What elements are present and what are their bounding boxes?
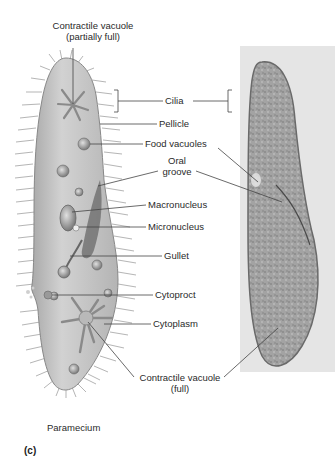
cytoproct — [44, 291, 52, 299]
micronucleus — [73, 225, 79, 231]
food-vacuole — [69, 364, 79, 374]
food-vacuole — [57, 165, 69, 177]
label-micronucleus: Micronucleus — [148, 221, 204, 232]
organism-caption: Paramecium — [47, 422, 100, 433]
panel-label: (c) — [24, 445, 36, 456]
food-vacuole — [75, 188, 83, 196]
label-text: (full) — [130, 383, 230, 394]
label-oral-groove: Oral groove — [156, 155, 198, 177]
label-text: (partially full) — [33, 31, 153, 42]
label-contractile-vacuole-partial: Contractile vacuole (partially full) — [33, 20, 153, 42]
label-macronucleus: Macronucleus — [148, 199, 207, 210]
label-text: Contractile vacuole — [130, 372, 230, 383]
label-text: groove — [156, 166, 198, 177]
label-gullet: Gullet — [164, 250, 189, 261]
label-contractile-vacuole-full: Contractile vacuole (full) — [130, 372, 230, 394]
label-food-vacuoles: Food vacuoles — [145, 138, 207, 149]
food-vacuole — [78, 138, 90, 150]
label-cytoproct: Cytoproct — [155, 289, 196, 300]
food-vacuole — [92, 260, 102, 270]
label-text: Oral — [156, 155, 198, 166]
label-cytoplasm: Cytoplasm — [153, 318, 198, 329]
food-vacuole — [104, 289, 112, 297]
label-cilia: Cilia — [165, 95, 183, 106]
label-text: Contractile vacuole — [33, 20, 153, 31]
label-pellicle: Pellicle — [159, 118, 189, 129]
paramecium-diagram — [0, 0, 335, 465]
